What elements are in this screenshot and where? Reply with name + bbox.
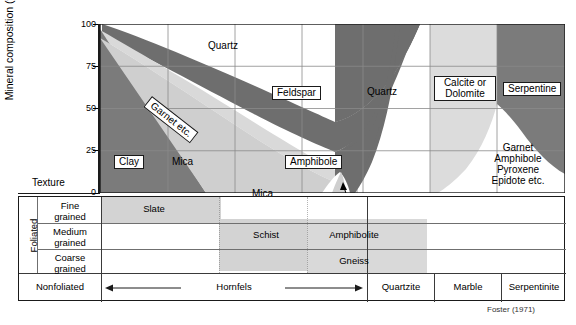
figure-credit: Foster (1971) xyxy=(487,305,535,314)
label-mica: Mica xyxy=(172,156,193,167)
garnet-group-line3: Pyroxene xyxy=(497,164,539,175)
texture-header: Texture xyxy=(32,177,65,188)
grain-row-fine: Fine grained xyxy=(39,201,101,222)
cell-slate: Slate xyxy=(119,204,189,215)
col-sep-grain xyxy=(101,197,102,302)
mineral-composition-chart: Quartz Feldspar Garnet etc. Clay Mica Am… xyxy=(100,24,565,193)
texture-classification-table: Fine grained Medium grained Coarse grain… xyxy=(18,196,565,301)
grain-row-medium: Medium grained xyxy=(39,227,101,248)
grain-coarse-line2: grained xyxy=(54,263,86,274)
col-sep-dotted-2 xyxy=(307,197,308,273)
foliated-label: Foliated xyxy=(28,206,39,266)
cell-serpentinite: Serpentinite xyxy=(503,282,565,293)
cell-schist: Schist xyxy=(231,230,301,241)
label-clay: Clay xyxy=(114,155,144,169)
calcite-line2: Dolomite xyxy=(445,88,484,99)
label-quartz-left: Quartz xyxy=(208,40,238,51)
ytick-mark-25 xyxy=(93,150,98,151)
grain-fine-line2: grained xyxy=(54,211,86,222)
row-sep-fine-medium xyxy=(37,223,566,224)
label-serpentine: Serpentine xyxy=(503,82,561,96)
grain-medium-line2: grained xyxy=(54,237,86,248)
ytick-mark-75 xyxy=(93,66,98,67)
cell-gneiss: Gneiss xyxy=(319,256,389,267)
col-sep-dotted-1 xyxy=(219,197,220,273)
grain-coarse-line1: Coarse xyxy=(55,252,86,263)
label-amphibole: Amphibole xyxy=(285,155,342,169)
col-sep-marble xyxy=(434,273,435,302)
cell-quartzite: Quartzite xyxy=(369,282,433,293)
texture-rule xyxy=(18,193,93,194)
label-quartz-right: Quartz xyxy=(367,86,397,97)
cell-hornfels: Hornfels xyxy=(115,282,353,293)
grain-fine-line1: Fine xyxy=(61,200,79,211)
row-sep-medium-coarse xyxy=(37,249,566,250)
cell-nonfoliated: Nonfoliated xyxy=(19,282,101,293)
garnet-group-line4: Epidote etc. xyxy=(492,175,545,186)
cell-marble: Marble xyxy=(436,282,500,293)
garnet-group-line2: Amphibole xyxy=(494,153,541,164)
grain-medium-line1: Medium xyxy=(53,226,87,237)
grain-row-coarse: Coarse grained xyxy=(39,253,101,274)
y-axis-line xyxy=(98,24,100,194)
calcite-line1: Calcite or xyxy=(444,77,486,88)
ytick-mark-0 xyxy=(93,193,98,194)
label-garnet-group: Garnet Amphibole Pyroxene Epidote etc. xyxy=(476,142,560,186)
cell-amphibolite: Amphibolite xyxy=(309,230,399,241)
col-sep-serpentinite xyxy=(501,273,502,302)
col-sep-quartzite xyxy=(367,197,368,302)
ytick-mark-100 xyxy=(93,24,98,25)
garnet-group-line1: Garnet xyxy=(503,142,534,153)
ytick-mark-50 xyxy=(93,108,98,109)
label-calcite-dolomite: Calcite or Dolomite xyxy=(434,76,496,101)
y-axis-label: Mineral composition (%) xyxy=(3,0,15,114)
figure-root: Quartz Feldspar Garnet etc. Clay Mica Am… xyxy=(0,0,576,325)
label-feldspar: Feldspar xyxy=(272,86,321,100)
